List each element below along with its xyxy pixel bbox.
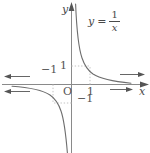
tick-label-x-negative-one: −1	[41, 64, 57, 75]
asymptote-arrow-right-lower	[110, 87, 133, 92]
tick-label-x-positive-one: 1	[87, 86, 94, 97]
equation-equals-sign: =	[97, 15, 106, 28]
x-axis-label: x	[139, 86, 145, 97]
asymptote-arrow-left-upper	[4, 74, 30, 79]
fraction-numerator: 1	[109, 10, 119, 21]
fraction-denominator: x	[110, 22, 120, 33]
y-axis-label: y	[62, 4, 68, 15]
tick-label-y-positive-one: 1	[60, 60, 67, 71]
plot-canvas	[0, 0, 150, 153]
equation-label: y = 1 x	[88, 10, 120, 33]
asymptote-arrow-left-lower	[4, 89, 30, 94]
origin-label: O	[63, 86, 72, 97]
equation-fraction: 1 x	[109, 10, 119, 33]
hyperbola-figure: y x O 1 −1 1 −1 y = 1 x	[0, 0, 150, 153]
hyperbola-branch-negative	[12, 86, 67, 153]
equation-variable: y	[88, 15, 94, 28]
y-axis-arrowhead	[69, 2, 75, 11]
asymptote-arrow-right-upper	[120, 72, 145, 77]
